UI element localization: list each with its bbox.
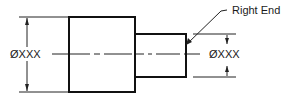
arrow-up-icon (25, 18, 29, 25)
right-end-callout: Right End (232, 4, 280, 16)
leader-line (187, 10, 227, 44)
arrow-down-icon (25, 84, 29, 91)
stepped-shaft-drawing: ØXXX ØXXX Right End (0, 0, 299, 105)
arrow-down-icon (225, 38, 229, 44)
large-diameter-label: ØXXX (10, 48, 41, 60)
arrow-up-icon (225, 66, 229, 72)
small-diameter-label: ØXXX (209, 48, 240, 60)
small-section-outline (135, 34, 186, 77)
